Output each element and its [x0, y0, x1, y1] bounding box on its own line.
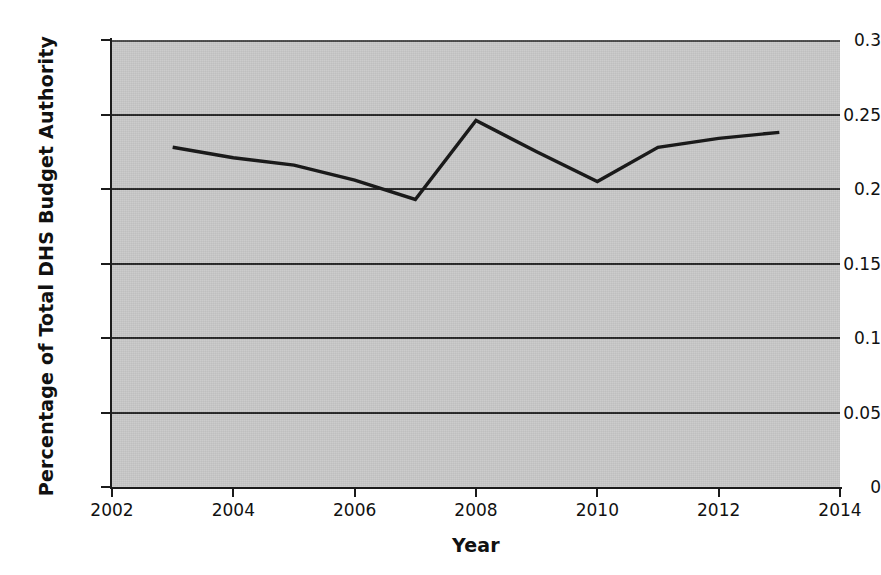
x-axis-tick: [596, 487, 598, 497]
x-axis-tick: [475, 487, 477, 497]
x-axis-tick-label: 2002: [72, 500, 152, 520]
y-axis-tick: [101, 263, 110, 265]
y-axis-tick: [101, 39, 110, 41]
x-axis-tick: [232, 487, 234, 497]
x-axis-title: Year: [112, 534, 840, 556]
x-axis-tick: [718, 487, 720, 497]
data-series-line: [173, 120, 780, 199]
x-axis-tick: [354, 487, 356, 497]
x-axis-tick-label: 2014: [800, 500, 880, 520]
data-series-layer: [112, 40, 840, 487]
x-axis-tick: [111, 487, 113, 497]
y-axis-title: Percentage of Total DHS Budget Authority: [34, 31, 58, 501]
x-axis-tick-label: 2004: [193, 500, 273, 520]
y-axis-tick: [101, 337, 110, 339]
x-axis-tick-label: 2006: [315, 500, 395, 520]
y-axis-tick: [101, 114, 110, 116]
x-axis-tick-label: 2010: [557, 500, 637, 520]
y-axis-tick: [101, 412, 110, 414]
y-axis-tick: [101, 188, 110, 190]
plot-area: [112, 40, 840, 487]
line-chart-figure: Percentage of Total DHS Budget Authority…: [0, 0, 881, 575]
y-axis-tick: [101, 486, 110, 488]
x-axis-tick-label: 2012: [679, 500, 759, 520]
x-axis-tick: [839, 487, 841, 497]
x-axis-tick-label: 2008: [436, 500, 516, 520]
